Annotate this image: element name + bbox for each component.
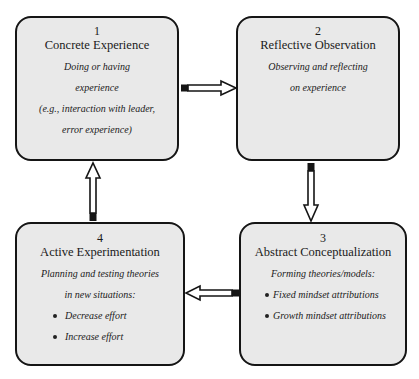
arrow-down-icon [303, 163, 319, 222]
node-description-line: Doing or having [17, 62, 177, 72]
bullet-text: Fixed mindset attributions [273, 289, 379, 300]
node-abstract-conceptualization: 3 Abstract Conceptualization Forming the… [239, 222, 407, 366]
node-reflective-observation: 2 Reflective Observation Observing and r… [236, 16, 400, 161]
node-title: Concrete Experience [17, 38, 177, 52]
bullet-text: Increase effort [65, 331, 123, 342]
node-number: 1 [17, 25, 177, 38]
node-number: 3 [241, 232, 405, 245]
arrow-left-icon [185, 285, 240, 301]
node-bullet: Growth mindset attributions [241, 311, 405, 321]
node-description-line: (e.g., interaction with leader, [17, 104, 177, 114]
node-title: Reflective Observation [238, 38, 398, 52]
arrow-up-icon [85, 162, 101, 222]
bullet-dot-icon [53, 314, 57, 318]
node-description-line: in new situations: [17, 290, 183, 300]
node-description-line: on experience [238, 83, 398, 93]
node-bullet: Increase effort [17, 332, 183, 342]
bullet-dot-icon [265, 314, 269, 318]
node-number: 2 [238, 25, 398, 38]
bullet-dot-icon [53, 335, 57, 339]
node-title: Abstract Conceptualization [241, 245, 405, 259]
node-description-line: error experience) [17, 125, 177, 135]
node-description-line: experience [17, 83, 177, 93]
node-number: 4 [17, 232, 183, 245]
arrow-right-icon [181, 80, 237, 96]
node-bullet: Decrease effort [17, 311, 183, 321]
node-title: Active Experimentation [17, 245, 183, 259]
node-description-line: Forming theories/models: [241, 269, 405, 279]
bullet-text: Growth mindset attributions [273, 310, 386, 321]
node-bullet: Fixed mindset attributions [241, 290, 405, 300]
node-active-experimentation: 4 Active Experimentation Planning and te… [15, 222, 185, 366]
bullet-dot-icon [265, 293, 269, 297]
node-description-line: Planning and testing theories [17, 269, 183, 279]
node-description-line: Observing and reflecting [238, 62, 398, 72]
node-concrete-experience: 1 Concrete Experience Doing or having ex… [15, 16, 179, 161]
bullet-text: Decrease effort [65, 310, 127, 321]
